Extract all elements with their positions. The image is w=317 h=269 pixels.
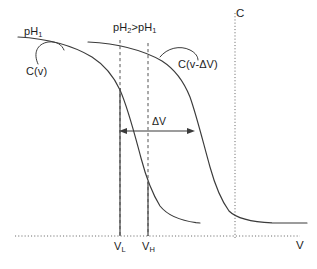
delta-v-label: ΔV bbox=[152, 116, 166, 127]
ph2-operand-subscript: 1 bbox=[152, 26, 156, 35]
left-curve-leader-line bbox=[36, 42, 64, 64]
ph2-label-text: pH bbox=[113, 21, 127, 33]
ph1-label-text: pH bbox=[24, 25, 38, 37]
delta-v-arrow-head-right bbox=[187, 128, 195, 134]
vl-tick-subscript: L bbox=[121, 245, 125, 254]
titration-curve-figure: pH1 pH2>pH1 C(v) C(v-ΔV) ΔV C V VL VH bbox=[0, 0, 317, 269]
vh-tick-subscript: H bbox=[149, 245, 155, 254]
ph2-comparison-label: pH2>pH1 bbox=[113, 22, 157, 33]
left-curve-label: C(v) bbox=[26, 66, 47, 77]
ph2-label-subscript: 2 bbox=[127, 26, 131, 35]
ph1-label-subscript: 1 bbox=[38, 30, 42, 39]
right-curve-label: C(v-ΔV) bbox=[178, 59, 218, 70]
figure-canvas bbox=[0, 0, 317, 269]
vh-tick-label: VH bbox=[142, 241, 155, 252]
vl-tick-label: VL bbox=[114, 241, 126, 252]
ph1-label: pH1 bbox=[24, 26, 43, 37]
ph2-operator-text: >pH bbox=[132, 21, 153, 33]
x-axis-label: V bbox=[296, 240, 304, 252]
y-axis-label: C bbox=[236, 8, 244, 20]
